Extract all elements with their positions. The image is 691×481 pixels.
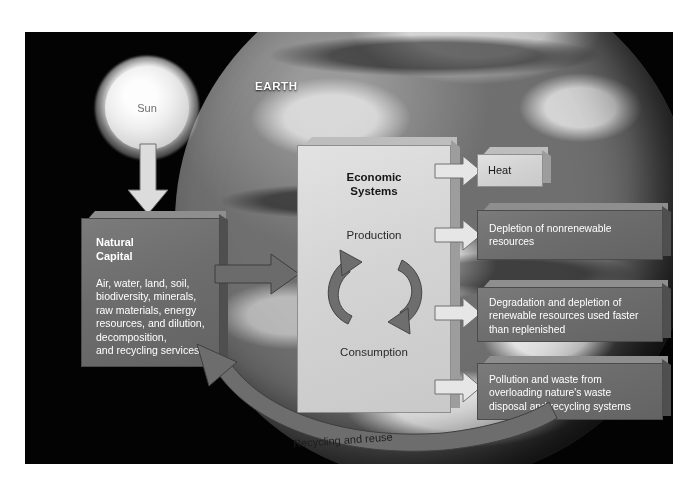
economic-systems-title-line2: Systems bbox=[298, 184, 450, 198]
natural-capital-body-line2: biodiversity, minerals, bbox=[96, 290, 220, 303]
economic-systems-title-line1: Economic bbox=[298, 170, 450, 184]
natural-capital-title-line1: Natural bbox=[96, 235, 134, 249]
pollution-box-side-bevel bbox=[662, 359, 671, 416]
degradation-line2: renewable resources used faster bbox=[489, 309, 661, 322]
natural-capital-body-line1: Air, water, land, soil, bbox=[96, 277, 220, 290]
depletion-line2: resources bbox=[489, 235, 659, 248]
economic-systems-to-depletion-arrow bbox=[435, 220, 483, 250]
production-label: Production bbox=[298, 229, 450, 241]
diagram-plate: EARTH Sun Natural Capital Air, water, la… bbox=[25, 32, 673, 464]
degradation-box-side-bevel bbox=[662, 283, 671, 338]
natural-capital-title-line2: Capital bbox=[96, 249, 134, 263]
economic-systems-to-degradation-arrow bbox=[435, 298, 483, 328]
sun-disc: Sun bbox=[105, 66, 189, 150]
economic-systems-to-heat-arrow bbox=[435, 156, 483, 186]
heat-box-face: Heat bbox=[477, 154, 543, 187]
sun-label: Sun bbox=[137, 102, 157, 114]
production-consumption-cycle-arrows bbox=[314, 246, 436, 338]
depletion-box-face: Depletion of nonrenewable resources bbox=[477, 210, 663, 260]
depletion-box-side-bevel bbox=[662, 206, 671, 256]
natural-capital-body-line3: raw materials, energy bbox=[96, 304, 220, 317]
diagram-page: EARTH Sun Natural Capital Air, water, la… bbox=[0, 0, 691, 481]
depletion-box: Depletion of nonrenewable resources bbox=[477, 210, 663, 260]
depletion-line1: Depletion of nonrenewable bbox=[489, 222, 659, 235]
earth-label: EARTH bbox=[255, 80, 298, 92]
sun-to-natural-capital-arrow bbox=[120, 144, 176, 216]
heat-label: Heat bbox=[488, 164, 511, 177]
natural-capital-body-line4: resources, and dilution, bbox=[96, 317, 220, 330]
heat-box: Heat bbox=[477, 154, 543, 187]
natural-capital-to-economic-systems-arrow bbox=[215, 254, 301, 294]
degradation-line1: Degradation and depletion of bbox=[489, 296, 661, 309]
